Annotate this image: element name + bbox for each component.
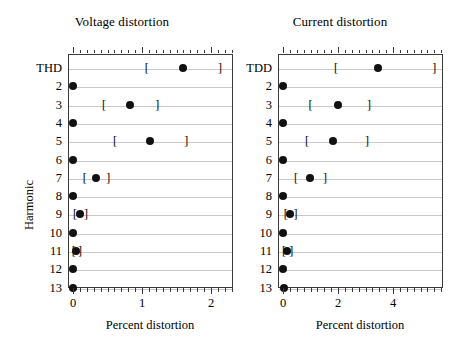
- x-tick-top-current-2.5: [352, 50, 353, 54]
- x-tick-bottom-current-0.5: [297, 288, 298, 292]
- x-tick-bottom-current-3: [366, 288, 367, 292]
- x-tick-top-current-0: [283, 47, 284, 53]
- y-tick-label-current-13: 13: [216, 281, 272, 294]
- x-tick-top-current-2.25: [345, 50, 346, 54]
- x-tick-bottom-current-4.75: [414, 288, 415, 292]
- interval-upper-bracket-current-3: ]: [367, 99, 371, 111]
- gridline-current-5: [279, 142, 442, 143]
- x-tick-top-current-4: [393, 47, 394, 53]
- x-tick-bottom-current-1.5: [324, 288, 325, 292]
- y-tick-label-current-7: 7: [216, 172, 272, 185]
- plot-area-current: [278, 54, 443, 288]
- x-tick-bottom-current-1.25: [317, 288, 318, 292]
- x-tick-bottom-current-4: [393, 288, 394, 294]
- interval-upper-bracket-current-5: ]: [365, 135, 369, 147]
- gridline-current-12: [279, 270, 442, 271]
- x-tick-bottom-current-2.25: [345, 288, 346, 292]
- data-point-current-2: [279, 82, 287, 90]
- x-tick-top-current-0.5: [297, 50, 298, 54]
- gridline-current-10: [279, 234, 442, 235]
- gridline-current-8: [279, 197, 442, 198]
- x-tick-bottom-current-5.25: [427, 288, 428, 292]
- gridline-current-4: [279, 124, 442, 125]
- x-tick-top-current-4.5: [407, 50, 408, 54]
- data-point-current-11: [283, 247, 291, 255]
- y-tick-label-current-4: 4: [216, 117, 272, 130]
- x-tick-top-current-1.5: [324, 50, 325, 54]
- data-point-current-4: [279, 119, 287, 127]
- gridline-current-9: [279, 215, 442, 216]
- panel-current: Current distortionTDD[]23[]45[]67[]89[]1…: [0, 0, 458, 350]
- x-tick-bottom-current-5.75: [441, 288, 442, 292]
- gridline-current-TDD: [279, 69, 442, 70]
- gridline-current-7: [279, 179, 442, 180]
- x-tick-top-current-0.25: [290, 50, 291, 54]
- x-tick-top-current-1.25: [317, 50, 318, 54]
- x-tick-bottom-current-3.5: [379, 288, 380, 292]
- x-tick-top-current-3.25: [372, 50, 373, 54]
- x-tick-top-current-4.25: [400, 50, 401, 54]
- interval-lower-bracket-current-TDD: [: [334, 62, 338, 74]
- x-tick-bottom-current-2: [338, 288, 339, 294]
- x-tick-top-current-4.75: [414, 50, 415, 54]
- y-tick-label-current-5: 5: [216, 135, 272, 148]
- x-tick-top-current-1.75: [331, 50, 332, 54]
- y-tick-label-current-3: 3: [216, 98, 272, 111]
- gridline-current-6: [279, 161, 442, 162]
- y-tick-label-current-12: 12: [216, 263, 272, 276]
- y-tick-label-current-6: 6: [216, 153, 272, 166]
- x-tick-bottom-current-0.75: [304, 288, 305, 292]
- x-tick-top-current-5: [421, 50, 422, 54]
- x-tick-bottom-current-2.5: [352, 288, 353, 292]
- x-tick-bottom-current-0: [283, 288, 284, 294]
- x-tick-label-current-2: 2: [335, 297, 341, 310]
- x-tick-top-current-3.75: [386, 50, 387, 54]
- x-tick-bottom-current-5.5: [434, 288, 435, 292]
- interval-lower-bracket-current-5: [: [305, 135, 309, 147]
- x-tick-bottom-current-2.75: [359, 288, 360, 292]
- y-tick-label-current-10: 10: [216, 226, 272, 239]
- gridline-current-11: [279, 252, 442, 253]
- interval-upper-bracket-current-7: ]: [323, 172, 327, 184]
- x-tick-bottom-current-3.25: [372, 288, 373, 292]
- x-tick-bottom-current-5: [421, 288, 422, 292]
- panel-title-current: Current distortion: [222, 14, 458, 30]
- x-tick-label-current-0: 0: [280, 297, 286, 310]
- x-tick-bottom-current-4.5: [407, 288, 408, 292]
- y-tick-label-current-11: 11: [216, 245, 272, 258]
- interval-lower-bracket-current-3: [: [309, 99, 313, 111]
- gridline-current-3: [279, 106, 442, 107]
- x-tick-top-current-1: [311, 50, 312, 54]
- x-axis-title-current: Percent distortion: [316, 318, 405, 333]
- data-point-current-12: [279, 265, 287, 273]
- y-tick-label-current-2: 2: [216, 80, 272, 93]
- data-point-current-10: [279, 229, 287, 237]
- x-tick-top-current-0.75: [304, 50, 305, 54]
- x-tick-bottom-current-4.25: [400, 288, 401, 292]
- harmonic-distortion-figure: HarmonicVoltage distortionTHD[]23[]45[]6…: [0, 0, 458, 350]
- data-point-current-7: [306, 174, 314, 182]
- interval-upper-bracket-current-TDD: ]: [432, 62, 436, 74]
- x-tick-top-current-2.75: [359, 50, 360, 54]
- x-tick-label-current-4: 4: [390, 297, 396, 310]
- data-point-current-9: [286, 210, 294, 218]
- x-tick-top-current-2: [338, 47, 339, 53]
- y-tick-label-current-8: 8: [216, 190, 272, 203]
- y-tick-label-current-TDD: TDD: [216, 62, 272, 75]
- x-tick-top-current-3: [366, 50, 367, 54]
- x-tick-bottom-current-1.75: [331, 288, 332, 292]
- data-point-current-8: [279, 192, 287, 200]
- data-point-current-6: [279, 156, 287, 164]
- x-tick-top-current-5.5: [434, 50, 435, 54]
- x-tick-top-current-3.5: [379, 50, 380, 54]
- x-tick-bottom-current-0.25: [290, 288, 291, 292]
- x-tick-bottom-current-3.75: [386, 288, 387, 292]
- data-point-current-TDD: [374, 64, 382, 72]
- interval-lower-bracket-current-7: [: [294, 172, 298, 184]
- data-point-current-3: [334, 101, 342, 109]
- data-point-current-5: [329, 137, 337, 145]
- x-tick-top-current-5.75: [441, 50, 442, 54]
- x-tick-top-current-5.25: [427, 50, 428, 54]
- gridline-current-2: [279, 87, 442, 88]
- y-tick-label-current-9: 9: [216, 208, 272, 221]
